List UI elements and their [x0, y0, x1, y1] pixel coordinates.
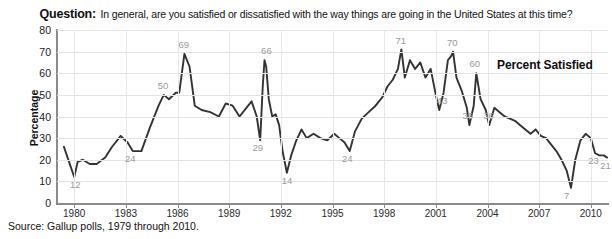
- y-tick-80: 80: [25, 25, 51, 35]
- x-tick-2004: 2004: [468, 208, 508, 219]
- data-label-24: 24: [342, 154, 353, 164]
- data-label-23: 23: [588, 156, 599, 166]
- x-tick-1989: 1989: [209, 208, 249, 219]
- data-label-7: 7: [564, 191, 569, 201]
- data-label-43: 43: [437, 96, 448, 106]
- data-label-21: 21: [600, 161, 611, 171]
- x-tickmark-1983: [126, 203, 127, 208]
- x-tick-1992: 1992: [261, 208, 301, 219]
- x-tickmark-1989: [229, 203, 230, 208]
- x-tickmark-1980: [74, 203, 75, 208]
- x-tick-1995: 1995: [313, 208, 353, 219]
- x-tick-1986: 1986: [158, 208, 198, 219]
- x-tick-2010: 2010: [571, 208, 611, 219]
- data-label-66: 66: [261, 46, 272, 56]
- series-callout-label: Percent Satisfied: [497, 58, 593, 72]
- x-tick-1980: 1980: [54, 208, 94, 219]
- data-label-14: 14: [282, 176, 293, 186]
- x-tick-1998: 1998: [364, 208, 404, 219]
- data-label-29: 29: [253, 143, 264, 153]
- x-tickmark-1998: [384, 203, 385, 208]
- y-tick-10: 10: [25, 176, 51, 186]
- x-tickmark-2001: [436, 203, 437, 208]
- data-label-50: 50: [158, 81, 169, 91]
- data-label-70: 70: [447, 38, 458, 48]
- x-tickmark-1992: [281, 203, 282, 208]
- y-tick-20: 20: [25, 155, 51, 165]
- data-label-12: 12: [70, 180, 81, 190]
- x-tickmark-2007: [539, 203, 540, 208]
- x-tickmark-2004: [488, 203, 489, 208]
- y-tick-60: 60: [25, 68, 51, 78]
- x-tickmark-1995: [333, 203, 334, 208]
- x-tickmark-2010: [591, 203, 592, 208]
- y-axis: 01020304050607080 Percentage: [0, 0, 612, 239]
- y-axis-title: Percentage: [28, 90, 40, 147]
- x-tick-2007: 2007: [519, 208, 559, 219]
- data-label-36: 36: [483, 111, 494, 121]
- data-label-71: 71: [395, 36, 406, 46]
- y-tick-0: 0: [25, 198, 51, 208]
- x-tickmark-1986: [178, 203, 179, 208]
- chart-figure: Question: In general, are you satisfied …: [0, 0, 612, 239]
- y-tick-70: 70: [25, 47, 51, 57]
- data-label-69: 69: [178, 40, 189, 50]
- data-label-60: 60: [469, 59, 480, 69]
- x-tick-2001: 2001: [416, 208, 456, 219]
- source-note: Source: Gallup polls, 1979 through 2010.: [8, 220, 199, 232]
- data-label-24: 24: [125, 154, 136, 164]
- x-tick-1983: 1983: [106, 208, 146, 219]
- data-label-36: 36: [463, 111, 474, 121]
